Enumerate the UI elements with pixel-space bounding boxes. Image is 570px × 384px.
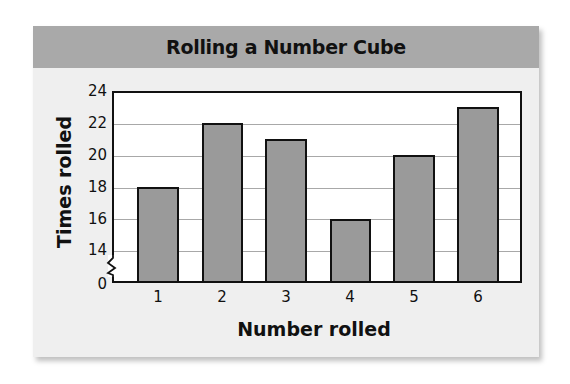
x-tick-1: 1	[143, 288, 173, 306]
bar-5	[393, 155, 435, 281]
bar-6	[457, 107, 499, 281]
x-tick-6: 6	[463, 288, 493, 306]
y-tick-20: 20	[77, 147, 107, 163]
y-axis-label: Times rolled	[53, 97, 75, 267]
y-tick-22: 22	[77, 115, 107, 131]
y-tick-24: 24	[77, 83, 107, 99]
chart-card: Rolling a Number Cube Times rolled 24 22…	[33, 26, 539, 357]
y-tick-16: 16	[77, 211, 107, 227]
axis-break-icon	[99, 253, 117, 279]
plot-area	[112, 91, 522, 283]
bar-1	[137, 187, 179, 281]
y-tick-18: 18	[77, 179, 107, 195]
x-axis-label: Number rolled	[214, 318, 414, 340]
bar-4	[330, 219, 371, 281]
x-tick-4: 4	[335, 288, 365, 306]
x-tick-5: 5	[399, 288, 429, 306]
x-tick-3: 3	[271, 288, 301, 306]
bar-2	[202, 123, 243, 281]
chart-header: Rolling a Number Cube	[33, 26, 539, 68]
bar-3	[265, 139, 307, 281]
chart-title: Rolling a Number Cube	[166, 36, 406, 58]
x-tick-2: 2	[207, 288, 237, 306]
